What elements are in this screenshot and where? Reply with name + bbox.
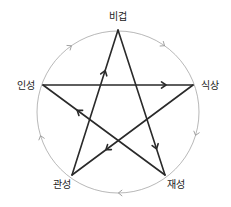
star-line-bigeop-to-jaeseong — [118, 30, 165, 175]
generating-circle — [37, 31, 199, 193]
node-label-gwanseong: 관성 — [53, 179, 71, 190]
node-label-inseong: 인성 — [17, 80, 35, 91]
star-line-siksang-to-gwanseong — [72, 85, 193, 175]
node-label-bigeop: 비겁 — [109, 11, 127, 22]
star-line-jaeseong-to-inseong — [43, 85, 165, 175]
node-labels: 비겁 식상 재성 관성 인성 — [17, 11, 219, 190]
five-elements-diagram: 비겁 식상 재성 관성 인성 — [0, 0, 231, 207]
node-label-siksang: 식상 — [201, 80, 219, 91]
node-label-jaeseong: 재성 — [167, 179, 185, 190]
generating-cycle-circle — [37, 31, 199, 196]
controlling-star — [43, 30, 193, 175]
star-line-gwanseong-to-bigeop — [72, 30, 118, 175]
